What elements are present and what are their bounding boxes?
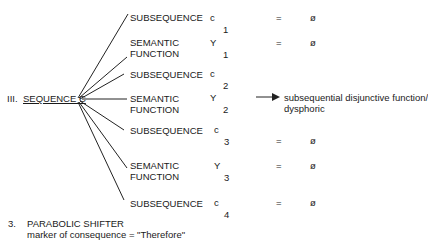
branch-symbol: c — [210, 12, 215, 23]
branch-symbol: c — [214, 124, 219, 135]
branch-eq: = — [276, 37, 282, 48]
root-label: SEQUENCE C — [23, 93, 86, 104]
branch-index: 3 — [224, 136, 229, 147]
branch-value: ø — [310, 12, 316, 23]
branch-label: SEMANTIC — [130, 37, 179, 48]
branch-value: ø — [310, 160, 316, 171]
roman-numeral: III. — [7, 93, 18, 104]
branch-label: SEMANTIC — [130, 93, 179, 104]
branch-label: SEMANTIC — [130, 160, 179, 171]
branch-index: 1 — [223, 49, 228, 60]
branch-label: SUBSEQUENCE — [130, 69, 203, 80]
branch-eq: = — [276, 197, 282, 208]
branch-symbol: c — [210, 68, 215, 79]
branch-value: ø — [310, 135, 316, 146]
branch-label: SUBSEQUENCE — [130, 125, 203, 136]
branch-label: FUNCTION — [130, 171, 179, 182]
footer-title: PARABOLIC SHIFTER — [27, 218, 124, 229]
branch-symbol: Y — [210, 92, 216, 103]
branch-value: ø — [310, 37, 316, 48]
branch-symbol: Y — [210, 37, 216, 48]
branch-eq: = — [276, 12, 282, 23]
branch-index: 2 — [223, 80, 228, 91]
footer-number: 3. — [8, 218, 16, 229]
branch-label: FUNCTION — [130, 48, 179, 59]
branch-label: SUBSEQUENCE — [130, 12, 203, 23]
branch-index: 1 — [223, 24, 228, 35]
branch-label: SUBSEQUENCE — [130, 198, 203, 209]
arrow-target-text: subsequential disjunctive function/ — [284, 92, 428, 103]
branch-label: FUNCTION — [130, 104, 179, 115]
branch-symbol: c — [214, 197, 219, 208]
branch-index: 2 — [223, 104, 228, 115]
branch-eq: = — [276, 160, 282, 171]
branch-index: 4 — [224, 209, 229, 220]
footer-subtitle: marker of consequence = "Therefore" — [27, 229, 185, 240]
branch-index: 3 — [224, 172, 229, 183]
branch-value: ø — [310, 197, 316, 208]
arrow-target-text: dysphoric — [284, 103, 325, 114]
branch-eq: = — [276, 135, 282, 146]
branch-symbol: Y — [214, 160, 220, 171]
arrow-head-icon — [272, 93, 280, 101]
